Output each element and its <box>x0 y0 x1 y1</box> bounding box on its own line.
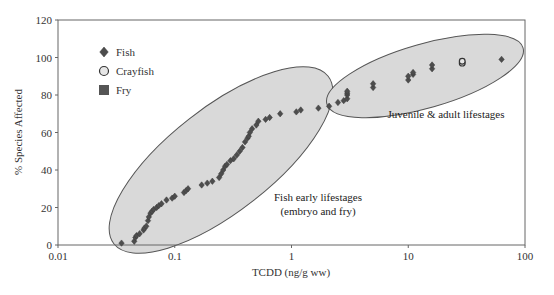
legend: FishCrayfishFry <box>99 46 154 96</box>
region-label: (embryo and fry) <box>280 205 355 218</box>
crayfish-circle-marker <box>459 58 465 64</box>
region-label: Fish early lifestages <box>274 191 362 203</box>
y-tick-label: 60 <box>41 127 53 139</box>
x-tick-label: 10 <box>403 250 415 262</box>
y-tick-label: 120 <box>36 14 53 26</box>
y-tick-label: 20 <box>41 202 53 214</box>
y-axis-title: % Species Affected <box>12 89 24 175</box>
crayfish-circle-marker <box>100 67 109 76</box>
y-axis-ticks: 020406080100120 <box>36 14 59 251</box>
x-tick-label: 100 <box>517 250 534 262</box>
y-tick-label: 80 <box>41 89 53 101</box>
x-tick-label: 0.1 <box>168 250 182 262</box>
legend-label-fry: Fry <box>116 84 132 96</box>
scatter-chart: 020406080100120 0.010.1110100 Fish early… <box>0 0 554 295</box>
y-tick-label: 40 <box>41 164 53 176</box>
y-tick-label: 100 <box>36 52 53 64</box>
x-axis-title: TCDD (ng/g ww) <box>252 266 331 279</box>
legend-label-fish: Fish <box>116 46 135 58</box>
legend-label-crayfish: Crayfish <box>116 65 154 77</box>
region-label: Juvenile & adult lifestages <box>388 108 505 120</box>
fry-square-marker <box>99 85 109 95</box>
x-tick-label: 1 <box>289 250 295 262</box>
x-tick-label: 0.01 <box>48 250 67 262</box>
fish-diamond-marker <box>100 47 109 57</box>
